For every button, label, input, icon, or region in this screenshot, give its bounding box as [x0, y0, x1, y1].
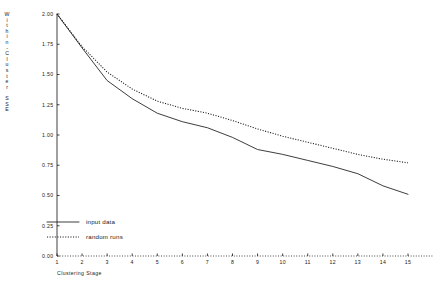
chart-plot-area: Within-ClusterSSE 0.000.250.500.751.001.…: [0, 0, 440, 285]
x-tick-label: 13: [355, 259, 361, 265]
x-tick-label: 3: [106, 259, 109, 265]
y-tick-label: 0.50: [42, 192, 54, 198]
series-line-random-runs: [57, 14, 408, 163]
y-tick-label: 2.00: [42, 11, 54, 17]
x-tick-label: 10: [279, 259, 285, 265]
y-tick-label: 1.25: [42, 102, 54, 108]
y-tick-label: 0.25: [42, 223, 54, 229]
x-tick-label: 8: [231, 259, 234, 265]
x-tick-label: 14: [380, 259, 386, 265]
legend-label: random runs: [86, 233, 123, 240]
chart-series: [57, 14, 408, 194]
y-tick-label: 1.50: [42, 71, 54, 77]
x-axis-title: Clustering Stage: [57, 270, 102, 276]
x-tick-label: 15: [405, 259, 411, 265]
y-tick-label: 1.75: [42, 41, 54, 47]
x-tick-label: 7: [206, 259, 209, 265]
y-tick-label: 0.00: [42, 253, 54, 259]
x-tick-label: 2: [80, 259, 83, 265]
y-tick-label: 0.75: [42, 162, 54, 168]
y-axis-label-char: r: [6, 84, 8, 90]
x-tick-label: 12: [330, 259, 336, 265]
x-tick-label: 1: [55, 259, 58, 265]
y-tick-label: 1.00: [42, 132, 54, 138]
x-tick-label: 4: [131, 259, 134, 265]
x-tick-label: 9: [256, 259, 259, 265]
y-axis-label-char: E: [5, 106, 9, 112]
chart-figure: Within-ClusterSSE 0.000.250.500.751.001.…: [0, 0, 440, 285]
x-tick-label: 5: [156, 259, 159, 265]
chart-legend: input datarandom runs: [47, 218, 123, 240]
x-axis-ticks: 123456789101112131415: [55, 254, 411, 266]
legend-label: input data: [86, 218, 116, 225]
y-axis-label: Within-ClusterSSE: [5, 11, 10, 112]
x-tick-label: 6: [181, 259, 184, 265]
x-tick-label: 11: [305, 259, 311, 265]
series-line-input-data: [57, 14, 408, 194]
